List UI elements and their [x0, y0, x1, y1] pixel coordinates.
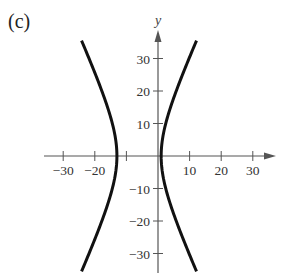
x-tick-label: 10 [183, 163, 197, 178]
x-axis-arrow-icon [264, 153, 276, 160]
y-axis-label: y [153, 13, 162, 28]
y-tick-label: −30 [129, 247, 150, 262]
y-axis-arrow-icon [155, 30, 162, 42]
axes: y−30−20102030302010−10−20−30 [44, 13, 276, 273]
y-tick-label: −10 [129, 182, 150, 197]
x-tick-label: −20 [84, 163, 105, 178]
x-tick-label: 30 [246, 163, 260, 178]
y-tick-label: −20 [129, 214, 150, 229]
y-tick-label: 30 [137, 52, 151, 67]
x-tick-label: −30 [53, 163, 74, 178]
x-tick-label: 20 [214, 163, 228, 178]
y-tick-label: 10 [137, 117, 151, 132]
hyperbola-chart: y−30−20102030302010−10−20−30 [0, 0, 288, 274]
y-tick-label: 20 [137, 84, 151, 99]
